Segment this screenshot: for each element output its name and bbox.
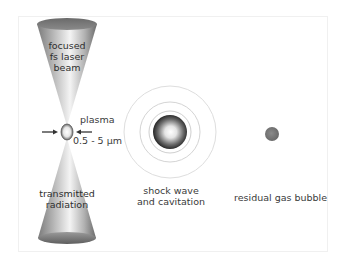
residual-gas-bubble-label: residual gas bubble: [234, 192, 327, 203]
transmitted-radiation-label: transmitted radiation: [37, 188, 97, 210]
label-line: transmitted: [37, 188, 97, 199]
label-line: shock wave: [135, 185, 207, 196]
left-arrow-icon: [42, 130, 58, 135]
label-line: and cavitation: [135, 196, 207, 207]
label-line: beam: [42, 62, 92, 73]
shock-wave-label: shock wave and cavitation: [135, 185, 207, 207]
plasma-ellipse: [61, 124, 73, 140]
label-line: fs laser: [42, 51, 92, 62]
focused-beam-label: focused fs laser beam: [42, 40, 92, 73]
residual-gas-bubble: [265, 127, 279, 141]
right-arrow-icon: [76, 130, 92, 135]
plasma-size-label: 0.5 - 5 µm: [73, 135, 122, 146]
diagram-canvas: [0, 0, 341, 255]
plasma-label: plasma: [80, 114, 115, 125]
label-line: radiation: [37, 199, 97, 210]
cavitation-sphere: [153, 115, 187, 149]
label-line: focused: [42, 40, 92, 51]
